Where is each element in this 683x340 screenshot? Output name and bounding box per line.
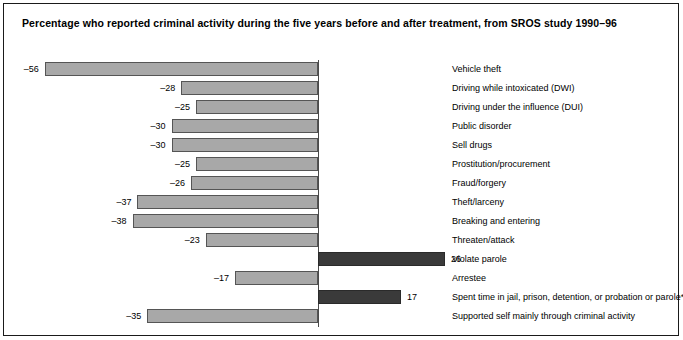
bar-value-label: –30 — [128, 119, 166, 133]
category-label: Violate parole — [452, 252, 507, 266]
category-label: Supported self mainly through criminal a… — [452, 309, 635, 323]
bar-row: –26Fraud/forgery — [0, 175, 683, 194]
bar-negative — [235, 271, 318, 285]
bar-value-label: –28 — [137, 81, 175, 95]
bar-negative — [45, 62, 318, 76]
category-label: Breaking and entering — [452, 214, 540, 228]
bar-row: –23Threaten/attack — [0, 232, 683, 251]
category-label: Theft/larceny — [452, 195, 504, 209]
bar-value-label: –25 — [152, 100, 190, 114]
bar-row: –38Breaking and entering — [0, 213, 683, 232]
bar-negative — [133, 214, 318, 228]
category-label: Arrestee — [452, 271, 486, 285]
bar-value-label: –23 — [162, 233, 200, 247]
bar-positive — [318, 290, 401, 304]
bar-value-label: –35 — [103, 309, 141, 323]
category-label: Threaten/attack — [452, 233, 515, 247]
plot-area: –56Vehicle theft–28Driving while intoxic… — [0, 55, 683, 330]
bar-negative — [191, 176, 318, 190]
bar-row: –35Supported self mainly through crimina… — [0, 308, 683, 327]
bar-negative — [196, 100, 318, 114]
bar-value-label: –26 — [147, 176, 185, 190]
category-label: Fraud/forgery — [452, 176, 506, 190]
bar-negative — [172, 138, 318, 152]
bar-row: –56Vehicle theft — [0, 61, 683, 80]
bar-value-label: –17 — [191, 271, 229, 285]
chart-figure: Percentage who reported criminal activit… — [0, 0, 683, 340]
bar-value-label: –38 — [89, 214, 127, 228]
bar-negative — [206, 233, 318, 247]
bar-row: –28Driving while intoxicated (DWI) — [0, 80, 683, 99]
category-label: Sell drugs — [452, 138, 492, 152]
bar-negative — [147, 309, 318, 323]
bar-negative — [181, 81, 318, 95]
bar-row: 26Violate parole — [0, 251, 683, 270]
bar-negative — [172, 119, 318, 133]
chart-title: Percentage who reported criminal activit… — [22, 17, 617, 29]
bar-negative — [196, 157, 318, 171]
bar-negative — [137, 195, 318, 209]
bar-row: –37Theft/larceny — [0, 194, 683, 213]
bar-row: –25Prostitution/procurement — [0, 156, 683, 175]
category-label: Prostitution/procurement — [452, 157, 550, 171]
bar-value-label: –56 — [1, 62, 39, 76]
category-label: Public disorder — [452, 119, 512, 133]
bar-positive — [318, 252, 445, 266]
bar-value-label: –30 — [128, 138, 166, 152]
bar-row: –30Public disorder — [0, 118, 683, 137]
bar-value-label: –25 — [152, 157, 190, 171]
bar-row: 17Spent time in jail, prison, detention,… — [0, 289, 683, 308]
bar-value-label: –37 — [93, 195, 131, 209]
category-label: Driving under the influence (DUI) — [452, 100, 583, 114]
category-label: Spent time in jail, prison, detention, o… — [452, 290, 683, 304]
category-label: Driving while intoxicated (DWI) — [452, 81, 575, 95]
bar-value-label: 17 — [407, 290, 447, 304]
category-label: Vehicle theft — [452, 62, 501, 76]
bar-row: –17Arrestee — [0, 270, 683, 289]
bar-row: –30Sell drugs — [0, 137, 683, 156]
bar-row: –25Driving under the influence (DUI) — [0, 99, 683, 118]
